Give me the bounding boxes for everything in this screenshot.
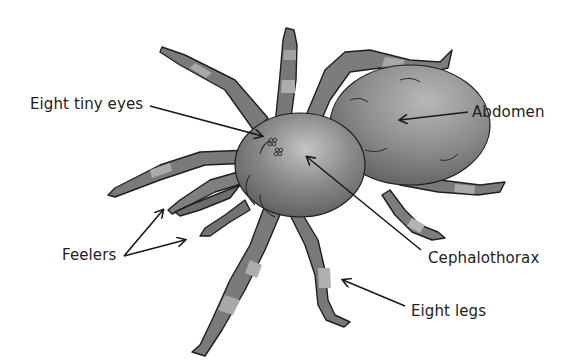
arrow-feeler-upper: [124, 210, 163, 256]
arrow-legs: [343, 280, 405, 306]
leg-top-left: [160, 47, 268, 132]
label-cephalothorax: Cephalothorax: [428, 249, 539, 267]
spider-cephalothorax: [235, 113, 365, 217]
label-feelers: Feelers: [62, 246, 116, 264]
label-legs: Eight legs: [411, 302, 486, 320]
label-eyes: Eight tiny eyes: [30, 95, 143, 113]
spider-diagram: [0, 0, 577, 361]
leg-right-lower: [382, 190, 445, 240]
arrow-feeler-lower: [124, 240, 185, 256]
label-abdomen: Abdomen: [472, 103, 545, 121]
leg-top-middle: [275, 28, 297, 125]
